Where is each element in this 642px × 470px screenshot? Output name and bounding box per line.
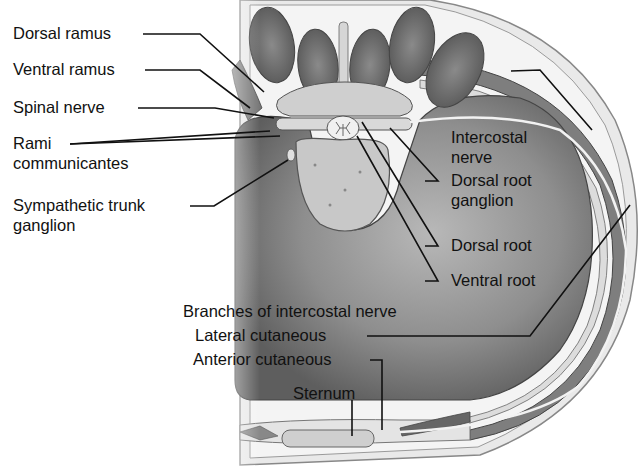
label-dorsal-ramus: Dorsal ramus — [13, 24, 111, 43]
label-communicantes: communicantes — [13, 154, 129, 173]
label-branches-heading: Branches of intercostal nerve — [183, 302, 397, 321]
label-spinal-nerve: Spinal nerve — [13, 98, 105, 117]
label-ventral-ramus: Ventral ramus — [13, 60, 115, 79]
intercostal-nerve-diagram: Dorsal ramus Ventral ramus Spinal nerve … — [0, 0, 642, 470]
label-anterior-cutaneous: Anterior cutaneous — [193, 350, 332, 369]
label-drg-ganglion: ganglion — [451, 191, 513, 210]
label-ganglion: ganglion — [13, 216, 75, 235]
label-dorsal-root: Dorsal root — [451, 236, 532, 255]
label-dorsal-root-ganglion: Dorsal root — [451, 171, 532, 190]
label-intercostal: Intercostal — [451, 128, 527, 147]
label-lateral-cutaneous: Lateral cutaneous — [195, 326, 326, 345]
label-sternum: Sternum — [293, 384, 355, 403]
label-nerve: nerve — [451, 148, 492, 167]
label-ventral-root: Ventral root — [451, 271, 535, 290]
label-sympathetic-trunk: Sympathetic trunk — [13, 196, 145, 215]
label-rami: Rami — [13, 134, 52, 153]
